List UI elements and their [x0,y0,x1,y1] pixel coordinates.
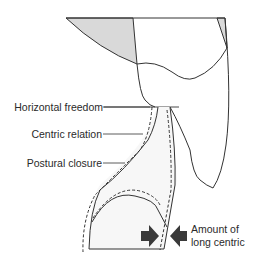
arrow-left-icon [170,225,187,247]
upper-tooth-facial-outline [170,18,229,188]
lower-tooth-body [89,107,177,249]
label-postural-closure: Postural closure [27,157,102,169]
upper-tooth-lingual-outline [137,64,155,107]
label-amount-of: Amount of [191,223,239,235]
label-centric-relation: Centric relation [31,128,102,140]
upper-left-shaded-region [66,18,137,64]
occlusion-diagram: Horizontal freedom Centric relation Post… [0,0,256,263]
label-long-centric: long centric [191,236,245,248]
label-horizontal-freedom: Horizontal freedom [14,101,103,113]
upper-tooth-inner-curve [137,48,227,79]
